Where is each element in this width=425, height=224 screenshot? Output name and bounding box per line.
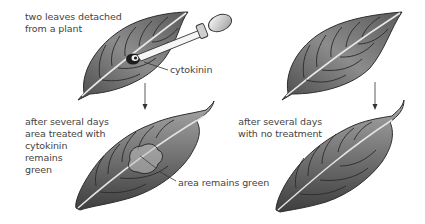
cytokinin-label: cytokinin — [170, 64, 212, 76]
untreated-result-line-1: after several days — [238, 116, 322, 128]
intro-line-1: two leaves detached — [25, 11, 122, 23]
green-area-label: area remains green — [178, 177, 269, 189]
arrow-right — [373, 82, 378, 110]
treated-result-line-3: cytokinin — [25, 140, 109, 152]
treated-result-line-5: green — [25, 164, 109, 176]
untreated-result-label: after several days with no treatment — [238, 116, 322, 140]
treated-result-line-1: after several days — [25, 116, 109, 128]
intro-label: two leaves detached from a plant — [25, 11, 122, 35]
treated-result-label: after several days area treated with cyt… — [25, 116, 109, 176]
arrow-left — [143, 83, 148, 110]
cytokinin-diagram: two leaves detached from a plant cytokin… — [0, 0, 425, 224]
untreated-result-line-2: with no treatment — [238, 128, 322, 140]
treated-result-line-2: area treated with — [25, 128, 109, 140]
intro-line-2: from a plant — [25, 23, 122, 35]
leaf-untreated-before — [282, 12, 402, 100]
treated-result-line-4: remains — [25, 152, 109, 164]
